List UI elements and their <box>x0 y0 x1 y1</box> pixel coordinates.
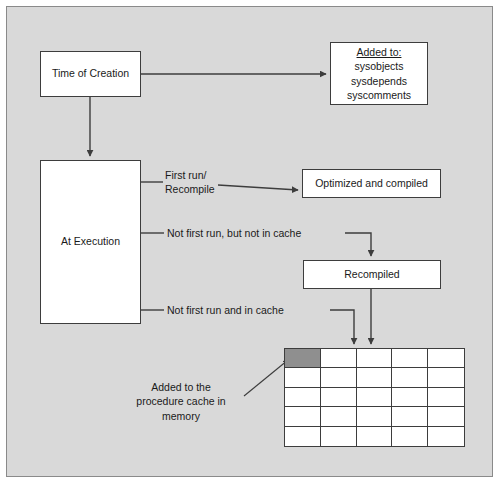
cache-cell-empty[interactable] <box>321 407 357 426</box>
cache-cell-empty[interactable] <box>321 349 357 368</box>
cache-cell-empty[interactable] <box>321 427 357 446</box>
cache-cell-empty[interactable] <box>357 368 393 387</box>
cache-cell-empty[interactable] <box>357 349 393 368</box>
cache-cell-empty[interactable] <box>285 368 321 387</box>
cache-cell-empty[interactable] <box>392 388 428 407</box>
added-to-header: Added to: <box>357 45 402 59</box>
cache-cell-empty[interactable] <box>285 388 321 407</box>
cache-cell-empty[interactable] <box>321 368 357 387</box>
cache-cell-empty[interactable] <box>428 407 464 426</box>
added-to-syscomments: syscomments <box>347 88 411 102</box>
cache-cell-empty[interactable] <box>285 427 321 446</box>
cache-cell-empty[interactable] <box>428 368 464 387</box>
cache-cell-empty[interactable] <box>392 427 428 446</box>
cache-cell-empty[interactable] <box>392 407 428 426</box>
cache-cell-empty[interactable] <box>357 427 393 446</box>
edge-label-not-first-run-not-in-cache: Not first run, but not in cache <box>167 226 357 240</box>
edge-label-first-run: First run/ Recompile <box>165 168 285 196</box>
node-optimized-and-compiled[interactable]: Optimized and compiled <box>302 169 441 198</box>
node-time-of-creation-label: Time of Creation <box>52 67 129 81</box>
edge-label-not-first-run-in-cache: Not first run and in cache <box>167 303 342 317</box>
cache-cell-empty[interactable] <box>428 349 464 368</box>
node-at-execution-label: At Execution <box>61 235 120 249</box>
cache-cell-empty[interactable] <box>321 388 357 407</box>
node-at-execution[interactable]: At Execution <box>40 160 141 324</box>
cache-cell-empty[interactable] <box>357 388 393 407</box>
cache-cell-empty[interactable] <box>357 407 393 426</box>
node-optimized-label: Optimized and compiled <box>315 177 428 191</box>
node-added-to-catalog[interactable]: Added to: sysobjects sysdepends syscomme… <box>330 42 428 105</box>
cache-cell-empty[interactable] <box>428 427 464 446</box>
added-to-sysdepends: sysdepends <box>351 74 407 88</box>
node-recompiled[interactable]: Recompiled <box>303 260 441 289</box>
diagram-canvas: Time of Creation At Execution Added to: … <box>0 0 501 486</box>
cache-cell-empty[interactable] <box>392 349 428 368</box>
cache-cell-occupied[interactable] <box>285 349 321 368</box>
cache-cell-empty[interactable] <box>392 368 428 387</box>
procedure-cache-grid[interactable] <box>284 348 465 447</box>
cache-cell-empty[interactable] <box>428 388 464 407</box>
cache-cell-empty[interactable] <box>285 407 321 426</box>
node-recompiled-label: Recompiled <box>344 268 399 282</box>
edge-label-added-to-procedure-cache: Added to the procedure cache in memory <box>117 380 245 423</box>
added-to-sysobjects: sysobjects <box>354 59 403 73</box>
node-time-of-creation[interactable]: Time of Creation <box>40 51 141 97</box>
